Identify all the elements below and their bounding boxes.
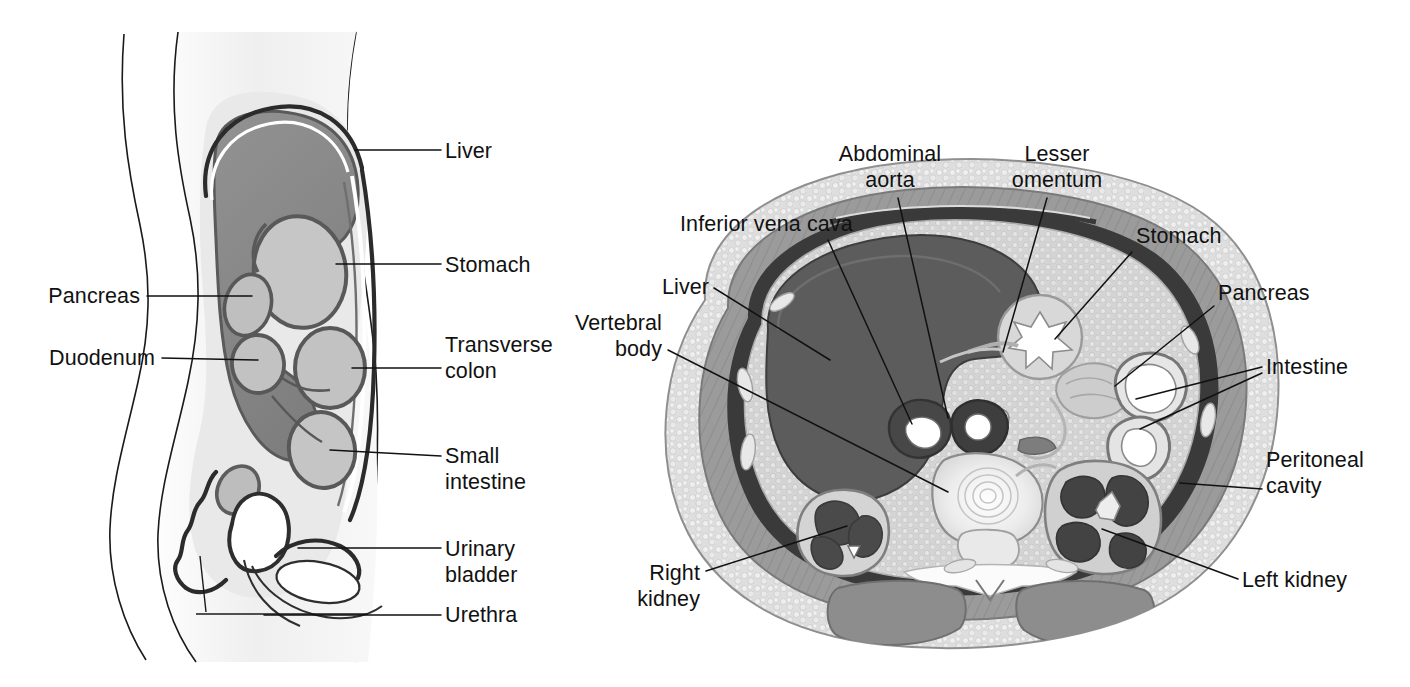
- aorta-lumen: [965, 414, 991, 440]
- svg-text:aorta: aorta: [865, 168, 915, 192]
- erector-spinae-right: [828, 581, 966, 645]
- svg-text:omentum: omentum: [1012, 168, 1102, 192]
- left-kidney-cortex-lower: [1056, 522, 1100, 561]
- figure-canvas: Liver Stomach Pancreas Transverse colon …: [0, 0, 1410, 687]
- label-liver-sagittal: Liver: [445, 139, 492, 163]
- label-inferior-vena-cava: Inferior vena cava: [680, 212, 853, 236]
- svg-text:Right: Right: [649, 561, 700, 585]
- svg-text:Vertebral: Vertebral: [575, 311, 662, 335]
- svg-text:intestine: intestine: [445, 470, 526, 494]
- intestine-lumen-lower: [1122, 429, 1157, 466]
- label-pancreas-ct: Pancreas: [1218, 281, 1310, 305]
- svg-text:body: body: [615, 337, 662, 361]
- svg-text:colon: colon: [445, 359, 497, 383]
- svg-text:bladder: bladder: [445, 563, 517, 587]
- label-liver-ct: Liver: [662, 275, 709, 299]
- svg-text:Small: Small: [445, 444, 499, 468]
- label-stomach-ct: Stomach: [1136, 224, 1222, 248]
- anatomy-figure: Liver Stomach Pancreas Transverse colon …: [0, 0, 1410, 687]
- svg-text:Lesser: Lesser: [1024, 142, 1089, 166]
- svg-text:Transverse: Transverse: [445, 333, 553, 357]
- label-pancreas-sagittal: Pancreas: [48, 284, 140, 308]
- svg-text:cavity: cavity: [1266, 474, 1322, 498]
- svg-text:Peritoneal: Peritoneal: [1266, 448, 1364, 472]
- label-duodenum-sagittal: Duodenum: [49, 346, 155, 370]
- svg-text:kidney: kidney: [637, 587, 700, 611]
- label-stomach-sagittal: Stomach: [445, 253, 531, 277]
- label-intestine: Intestine: [1266, 355, 1348, 379]
- rectum-structure: [229, 494, 289, 571]
- svg-text:Abdominal: Abdominal: [839, 142, 942, 166]
- label-urethra-sagittal: Urethra: [445, 603, 517, 627]
- svg-text:Urinary: Urinary: [445, 537, 515, 561]
- label-left-kidney: Left kidney: [1242, 568, 1347, 592]
